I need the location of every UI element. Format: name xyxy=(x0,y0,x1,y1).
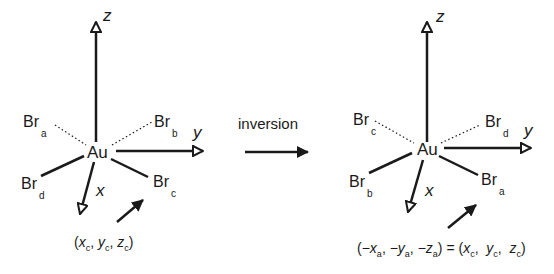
right-z-label: z xyxy=(436,8,445,25)
right-br-a: Bra xyxy=(481,172,505,188)
left-x-label: x xyxy=(96,182,105,199)
right-y-label: y xyxy=(524,122,533,139)
left-au-label: Au xyxy=(87,144,108,161)
inversion-label: inversion xyxy=(238,116,298,131)
right-coordinate-equation: (−xa, −ya, −za) = (xc, yc, zc) xyxy=(357,240,526,259)
left-coordinate-label: (xc, yc, zc) xyxy=(74,234,133,253)
left-br-b: Brb xyxy=(154,114,178,130)
left-br-c: Brc xyxy=(153,174,176,190)
right-br-b: Brb xyxy=(349,174,373,190)
left-z-label: z xyxy=(103,7,112,24)
left-molecule xyxy=(41,22,203,222)
left-x-axis xyxy=(80,162,94,214)
right-bond-br-b xyxy=(369,153,412,173)
right-br-d: Brd xyxy=(485,114,509,130)
diagram-lines xyxy=(0,0,554,274)
left-br-d: Brd xyxy=(21,176,45,192)
right-br-c: Brc xyxy=(353,112,376,128)
left-bond-br-a xyxy=(55,125,86,145)
left-bond-br-b xyxy=(112,122,152,145)
left-pointer-arrow xyxy=(117,200,143,222)
left-y-label: y xyxy=(193,124,202,141)
left-bond-br-c xyxy=(111,159,148,177)
right-bond-br-d xyxy=(441,125,480,143)
right-bond-br-a xyxy=(439,156,478,175)
right-x-axis xyxy=(408,160,423,212)
right-au-label: Au xyxy=(417,141,438,158)
right-x-label: x xyxy=(425,182,434,199)
right-bond-br-c xyxy=(375,121,414,143)
left-bond-br-d xyxy=(41,156,84,176)
right-pointer-arrow xyxy=(448,205,476,228)
left-br-a: Bra xyxy=(23,114,47,130)
